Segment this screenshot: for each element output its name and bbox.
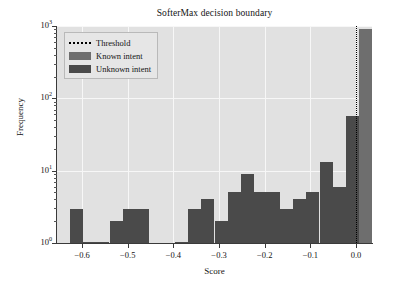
x-tick-mark (310, 244, 311, 248)
x-tick-label: 0.0 (338, 250, 374, 260)
x-tick-mark (356, 244, 357, 248)
legend-label: Threshold (96, 38, 130, 48)
histogram-bar-unknown (215, 221, 228, 243)
threshold-line (356, 26, 357, 243)
legend-swatch-unknown-icon (69, 65, 91, 73)
y-tick-minor (54, 178, 57, 179)
x-tick-mark (173, 244, 174, 248)
histogram-bar-unknown (306, 192, 319, 243)
chart-title: SofterMax decision boundary (57, 8, 372, 18)
y-tick-minor (54, 136, 57, 137)
y-tick-minor (54, 105, 57, 106)
y-tick-minor (54, 114, 57, 115)
histogram-bar-unknown (110, 221, 123, 243)
y-tick-label: 103 (22, 20, 52, 30)
legend-item: Unknown intent (69, 62, 151, 75)
y-tick-minor (54, 37, 57, 38)
y-tick-minor (54, 127, 57, 128)
y-tick-minor (54, 199, 57, 200)
gridline-vertical (173, 26, 174, 243)
histogram-bar-unknown (254, 192, 267, 243)
y-tick-mark (52, 98, 57, 99)
x-tick-mark (265, 244, 266, 248)
y-tick-mark (52, 26, 57, 27)
x-axis-spine (57, 243, 373, 244)
x-tick-label: −0.1 (292, 250, 328, 260)
y-tick-mark (52, 243, 57, 244)
y-axis-spine (56, 26, 57, 243)
gridline-horizontal (57, 98, 372, 99)
y-tick-minor (54, 120, 57, 121)
y-tick-minor (54, 208, 57, 209)
y-tick-minor (54, 42, 57, 43)
legend-label: Unknown intent (96, 64, 151, 74)
y-tick-minor (54, 192, 57, 193)
y-axis-label: Frequency (15, 69, 25, 165)
legend-item: Known intent (69, 49, 151, 62)
legend-swatch-known-icon (69, 52, 91, 60)
y-tick-minor (54, 48, 57, 49)
chart-legend: ThresholdKnown intentUnknown intent (64, 32, 158, 79)
x-tick-label: −0.2 (247, 250, 283, 260)
histogram-bar-unknown (228, 192, 241, 243)
x-tick-mark (82, 244, 83, 248)
histogram-bar-unknown (201, 199, 214, 243)
y-tick-minor (54, 29, 57, 30)
y-tick-minor (54, 149, 57, 150)
y-tick-minor (54, 182, 57, 183)
gridline-vertical (219, 26, 220, 243)
x-tick-label: −0.6 (64, 250, 100, 260)
x-tick-mark (219, 244, 220, 248)
histogram-bar-unknown (333, 187, 346, 243)
y-tick-mark (52, 171, 57, 172)
histogram-bar-unknown (320, 162, 333, 243)
histogram-bar-unknown (293, 199, 306, 243)
gridline-horizontal (57, 26, 372, 27)
histogram-bar-unknown (267, 192, 280, 243)
legend-item: Threshold (69, 36, 151, 49)
chart-figure: SofterMax decision boundary 100101102103… (0, 0, 405, 288)
x-tick-label: −0.5 (110, 250, 146, 260)
histogram-bar-unknown (123, 209, 136, 244)
histogram-bar-unknown (241, 174, 254, 243)
x-tick-label: −0.3 (201, 250, 237, 260)
x-tick-label: −0.4 (155, 250, 191, 260)
y-tick-minor (54, 174, 57, 175)
y-tick-minor (54, 110, 57, 111)
y-tick-minor (54, 77, 57, 78)
y-tick-label: 101 (22, 165, 52, 175)
legend-label: Known intent (96, 51, 143, 61)
y-tick-minor (54, 33, 57, 34)
y-tick-label: 100 (22, 237, 52, 247)
y-tick-minor (54, 221, 57, 222)
y-tick-minor (54, 102, 57, 103)
histogram-bar-known (359, 29, 372, 243)
y-tick-label: 102 (22, 92, 52, 102)
y-tick-minor (54, 64, 57, 65)
x-tick-mark (128, 244, 129, 248)
histogram-bar-unknown (70, 209, 83, 244)
histogram-bar-unknown (136, 209, 149, 244)
x-axis-label: Score (57, 266, 372, 276)
y-tick-minor (54, 187, 57, 188)
histogram-bar-unknown (188, 209, 201, 244)
y-tick-minor (54, 55, 57, 56)
legend-swatch-threshold-icon (69, 42, 91, 44)
histogram-bar-unknown (280, 209, 293, 244)
